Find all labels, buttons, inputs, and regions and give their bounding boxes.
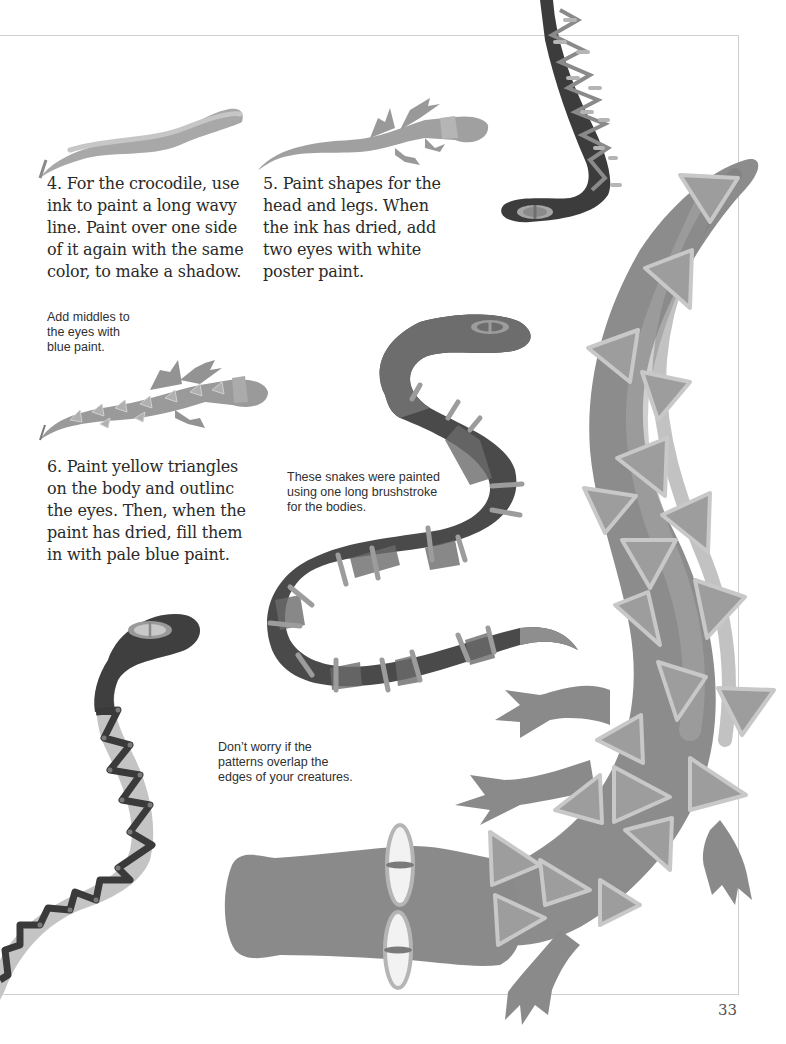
snakes-tip-caption: These snakes were painted using one long… bbox=[287, 470, 440, 515]
step-6-instructions: 6. Paint yellow triangles on the body an… bbox=[47, 456, 246, 566]
snake-top-zigzag-illustration bbox=[501, 0, 620, 222]
step-5-instructions: 5. Paint shapes for the head and legs. W… bbox=[263, 173, 441, 283]
patterns-tip-caption: Don’t worry if the patterns overlap the … bbox=[218, 740, 353, 785]
step-4-instructions: 4. For the crocodile, use ink to paint a… bbox=[47, 173, 243, 283]
large-crocodile-illustration bbox=[225, 159, 774, 1025]
book-page: 4. For the crocodile, use ink to paint a… bbox=[0, 0, 786, 1044]
page-number: 33 bbox=[718, 1001, 737, 1019]
crocodile-head-legs-illustration bbox=[258, 98, 488, 170]
eyes-tip-caption: Add middles to the eyes with blue paint. bbox=[47, 310, 130, 355]
wavy-line-stroke-illustration bbox=[40, 109, 243, 178]
snake-left-zigzag-illustration bbox=[0, 614, 200, 1000]
crocodile-triangles-illustration bbox=[40, 360, 268, 440]
